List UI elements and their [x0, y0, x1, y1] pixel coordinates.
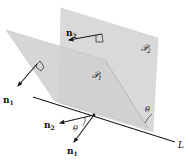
label-n1-top: n1: [3, 95, 14, 106]
label-n2-bottom: n2: [44, 120, 55, 131]
label-n1-bottom: n1: [67, 146, 78, 157]
label-theta-bottom: θ: [73, 124, 78, 133]
normal-n1-top-arrow: [18, 64, 37, 86]
intersecting-planes-diagram: n2 n1 𝒫2 𝒫1 n2 n1 θ θ L: [0, 0, 189, 161]
label-theta-right: θ: [145, 105, 150, 114]
label-line-l: L: [177, 140, 184, 150]
angle-arc-bottom: [83, 117, 85, 126]
